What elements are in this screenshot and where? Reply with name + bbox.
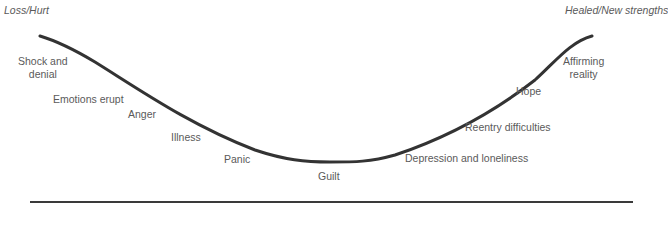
stage-anger: Anger	[128, 108, 156, 121]
stage-depression-loneliness: Depression and loneliness	[405, 152, 528, 165]
baseline-rule	[30, 201, 633, 203]
stage-panic: Panic	[224, 153, 250, 166]
stage-affirming-reality: Affirming reality	[563, 55, 604, 81]
stage-emotions-erupt: Emotions erupt	[53, 93, 124, 106]
stage-label-line2: denial	[18, 68, 68, 81]
stage-illness: Illness	[171, 131, 201, 144]
stage-guilt: Guilt	[318, 170, 340, 183]
stage-label-line1: Shock and	[18, 55, 68, 68]
stage-label-line2: reality	[563, 68, 604, 81]
stage-reentry-difficulties: Reentry difficulties	[465, 121, 551, 134]
stage-hope: Hope	[516, 85, 541, 98]
stage-shock-denial: Shock and denial	[18, 55, 68, 81]
stage-label-line1: Affirming	[563, 55, 604, 68]
